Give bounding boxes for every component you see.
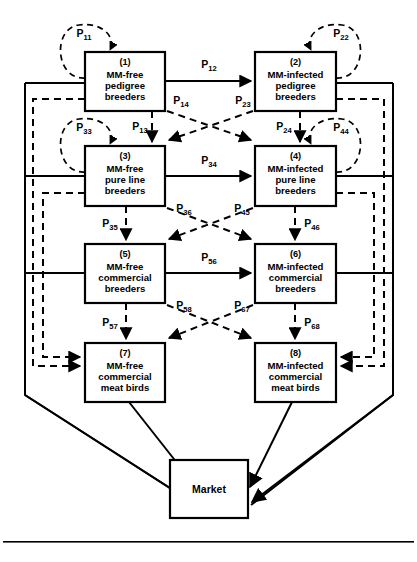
- link-label-P68: P68: [304, 316, 319, 331]
- link-label-P12: P12: [201, 58, 216, 73]
- feedback-node3-to-node7: [43, 193, 85, 357]
- flow-diagram-svg: (1)MM-freepedigreebreeders(2)MM-infected…: [0, 0, 417, 562]
- node-label-line: MM-free: [107, 261, 144, 272]
- node-number: (8): [290, 348, 301, 358]
- node-4[interactable]: (4)MM-infectedpure linebreeders: [255, 146, 336, 206]
- diagram-canvas: (1)MM-freepedigreebreeders(2)MM-infected…: [0, 0, 417, 562]
- node-label-line: MM-free: [107, 360, 144, 371]
- node-label-line: breeders: [275, 91, 316, 102]
- arrow-frameleft-to-market: [25, 395, 192, 502]
- node-boxes: (1)MM-freepedigreebreeders(2)MM-infected…: [85, 52, 336, 518]
- node-label-line: pedigree: [105, 80, 145, 91]
- link-label-P36: P36: [176, 202, 191, 217]
- node-3[interactable]: (3)MM-freepure linebreeders: [85, 146, 165, 206]
- selfloop-label-P11: P11: [76, 27, 92, 42]
- node-7[interactable]: (7)MM-freecommercialmeat birds: [85, 343, 165, 402]
- node-2[interactable]: (2)MM-infectedpedigreebreeders: [255, 52, 336, 111]
- node-label-line: breeders: [105, 283, 146, 294]
- link-label-P35: P35: [102, 217, 118, 232]
- node-1[interactable]: (1)MM-freepedigreebreeders: [85, 52, 165, 111]
- node-8[interactable]: (8)MM-infectedcommercialmeat birds: [255, 343, 336, 402]
- node-label-line: breeders: [275, 185, 316, 196]
- link-label-P24: P24: [276, 120, 292, 135]
- node-number: (2): [290, 57, 301, 67]
- node-market[interactable]: Market: [170, 460, 248, 518]
- node-label-line: MM-infected: [268, 69, 324, 80]
- node-number: (3): [119, 151, 130, 161]
- link-label-P34: P34: [201, 154, 217, 169]
- arrow-node8-to-market: [250, 402, 292, 487]
- node-number: (6): [290, 249, 301, 259]
- link-label-P14: P14: [173, 94, 189, 109]
- node-label-line: meat birds: [271, 382, 320, 393]
- node-label-line: breeders: [105, 91, 146, 102]
- node-label-line: commercial: [269, 371, 322, 382]
- link-label-P57: P57: [102, 316, 117, 331]
- arrow-frameright-to-market: [252, 395, 393, 502]
- node-number: (5): [119, 249, 130, 259]
- node-label-line: commercial: [269, 272, 322, 283]
- node-number: (1): [119, 57, 130, 67]
- node-label-line: commercial: [98, 371, 151, 382]
- feedback-loops-left: [33, 99, 85, 366]
- link-label-P58: P58: [176, 299, 191, 314]
- node-label-line: commercial: [98, 272, 151, 283]
- outer-frame: [25, 83, 393, 505]
- node-6[interactable]: (6)MM-infectedcommercialbreeders: [255, 244, 336, 303]
- node-label-line: MM-free: [107, 163, 144, 174]
- node-label-line: pedigree: [276, 80, 316, 91]
- feedback-node4-to-node8: [336, 193, 374, 357]
- link-label-P23: P23: [235, 94, 250, 109]
- node-label-line: pure line: [276, 174, 316, 185]
- node-5[interactable]: (5)MM-freecommercialbreeders: [85, 244, 165, 303]
- node-label-line: Market: [192, 483, 226, 495]
- node-label-line: meat birds: [101, 382, 150, 393]
- node-label-line: MM-infected: [268, 261, 324, 272]
- page-bottom-rule: [3, 541, 414, 543]
- node-label-line: MM-free: [107, 69, 144, 80]
- selfloop-label-P44: P44: [333, 121, 349, 136]
- link-label-P56: P56: [201, 251, 216, 266]
- node-label-line: breeders: [105, 185, 146, 196]
- node-label-line: pure line: [105, 174, 145, 185]
- node-number: (7): [119, 348, 130, 358]
- feedback-node1-to-node7: [33, 99, 85, 366]
- horizontal-links: [165, 81, 251, 273]
- link-label-P13: P13: [132, 120, 147, 135]
- node-label-line: breeders: [275, 283, 316, 294]
- node-label-line: MM-infected: [268, 163, 324, 174]
- node-label-line: MM-infected: [268, 360, 324, 371]
- selfloop-label-P33: P33: [76, 121, 91, 136]
- selfloop-label-P22: P22: [333, 27, 348, 42]
- link-label-P46: P46: [304, 217, 319, 232]
- node-number: (4): [290, 151, 301, 161]
